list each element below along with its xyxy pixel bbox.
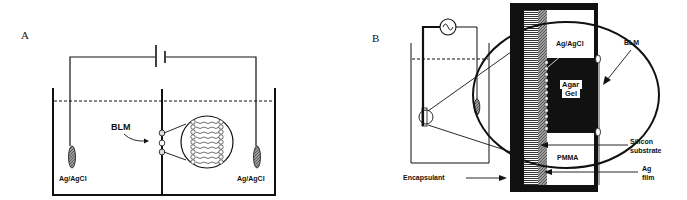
- silicon-label-1: Silicon: [630, 138, 653, 145]
- agar-label: Agar: [562, 80, 579, 89]
- blm-bottom-icon: [596, 128, 601, 136]
- electrode-right-icon: [254, 146, 261, 168]
- ag-film-label-2: film: [642, 174, 654, 181]
- blm-top-icon: [596, 55, 601, 63]
- blm-aperture: [159, 130, 165, 155]
- gel-label: Gel: [565, 89, 577, 98]
- device-cross-section: Agar Gel Ag/AgCl PMMA: [510, 3, 601, 192]
- panel-a-label: A: [21, 29, 29, 41]
- panel-a: A Ag/AgCl Ag/AgCl BLM: [21, 29, 275, 196]
- electrode-left-icon: [69, 146, 76, 168]
- electrode-right-label: Ag/AgCl: [237, 175, 265, 183]
- blm-b-label: BLM: [624, 39, 639, 46]
- encapsulant-label: Encapsulant: [403, 174, 445, 182]
- electrode-left-label: Ag/AgCl: [59, 175, 87, 183]
- ag-agcl-label: Ag/AgCl: [556, 40, 584, 48]
- lipid-bilayer-icon: [181, 116, 233, 168]
- blm-arrow-icon: [124, 134, 146, 141]
- blm-label: BLM: [111, 122, 131, 132]
- battery-icon: [156, 45, 165, 67]
- diagram-canvas: A Ag/AgCl Ag/AgCl BLM: [0, 0, 687, 200]
- panel-b: B Encapsulant: [372, 3, 662, 192]
- silicon-label-2: substrate: [630, 147, 662, 154]
- ag-film-label-1: Ag: [642, 165, 651, 173]
- ac-source-icon: [440, 19, 456, 35]
- panel-b-label: B: [372, 32, 379, 44]
- pmma-label: PMMA: [557, 154, 578, 161]
